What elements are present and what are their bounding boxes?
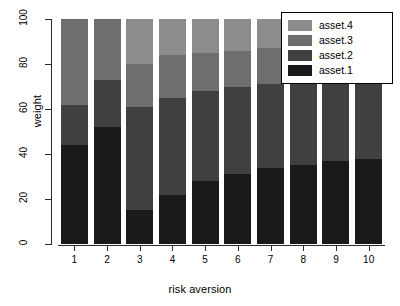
bar-column [257,19,284,244]
bar-segment [257,168,284,245]
y-axis-tick-label: 60 [18,97,29,119]
legend-label: asset.1 [319,65,353,76]
legend: asset.4asset.3asset.2asset.1 [281,12,393,84]
y-axis-tick [45,64,51,65]
x-axis-tick [238,246,239,251]
x-axis-title: risk aversion [0,283,400,295]
x-axis-tick [140,246,141,251]
legend-item: asset.1 [288,63,386,78]
legend-label: asset.3 [319,35,353,46]
bar-segment [290,80,317,166]
bar-segment [94,80,121,127]
bar-segment [159,19,186,55]
x-axis-tick-label: 9 [333,254,339,265]
y-axis-tick [45,199,51,200]
bar-segment [159,55,186,98]
bar-segment [159,98,186,195]
legend-item: asset.3 [288,33,386,48]
legend-swatch [288,65,312,76]
x-axis-tick-label: 3 [137,254,143,265]
x-axis-tick-label: 4 [170,254,176,265]
x-axis-tick [369,246,370,251]
legend-item: asset.2 [288,48,386,63]
bar-segment [257,19,284,48]
bar-segment [355,159,382,245]
x-axis-tick-label: 7 [268,254,274,265]
x-axis-tick [172,246,173,251]
bar-column [61,19,88,244]
legend-item: asset.4 [288,18,386,33]
bar-segment [126,107,153,211]
bar-segment [224,87,251,175]
x-axis-tick [336,246,337,251]
stacked-bar-chart: weight 020406080100 12345678910 risk ave… [0,0,400,306]
bar-segment [159,195,186,245]
bar-segment [257,84,284,167]
y-axis-tick-label: 100 [18,7,29,29]
y-axis-tick-label: 20 [18,187,29,209]
x-axis-tick [74,246,75,251]
bar-segment [290,165,317,244]
bar-column [224,19,251,244]
bar-column [126,19,153,244]
y-axis-line [51,19,52,245]
bar-column [159,19,186,244]
bar-segment [94,127,121,244]
y-axis-tick-label: 40 [18,142,29,164]
bar-segment [61,105,88,146]
y-axis-tick-label: 0 [18,232,29,254]
bar-segment [192,181,219,244]
legend-label: asset.2 [319,50,353,61]
x-axis-tick-label: 5 [202,254,208,265]
x-axis-tick [303,246,304,251]
bar-segment [192,91,219,181]
x-axis-tick [205,246,206,251]
y-axis-tick [45,154,51,155]
legend-label: asset.4 [319,20,353,31]
x-axis-tick [271,246,272,251]
bar-segment [94,19,121,80]
x-axis-tick-label: 8 [300,254,306,265]
bar-segment [257,48,284,84]
bar-segment [192,19,219,53]
x-axis-tick-label: 1 [72,254,78,265]
x-axis-tick-label: 10 [363,254,374,265]
bar-column [192,19,219,244]
bar-segment [322,80,349,161]
bar-segment [224,51,251,87]
legend-swatch [288,20,312,31]
y-axis-tick-labels: 020406080100 [0,0,44,306]
bar-segment [322,161,349,244]
bar-segment [126,19,153,64]
x-axis-tick-label: 6 [235,254,241,265]
y-axis-tick [45,19,51,20]
y-axis-tick [45,109,51,110]
legend-swatch [288,50,312,61]
bar-segment [61,145,88,244]
bar-segment [355,78,382,159]
y-axis-tick-label: 80 [18,52,29,74]
bar-segment [126,64,153,107]
bar-column [94,19,121,244]
bar-segment [61,19,88,105]
x-axis-tick [107,246,108,251]
x-axis-tick-label: 2 [104,254,110,265]
legend-swatch [288,35,312,46]
y-axis-tick [45,244,51,245]
bar-segment [224,174,251,244]
bar-segment [126,210,153,244]
bar-segment [192,53,219,91]
bar-segment [224,19,251,51]
